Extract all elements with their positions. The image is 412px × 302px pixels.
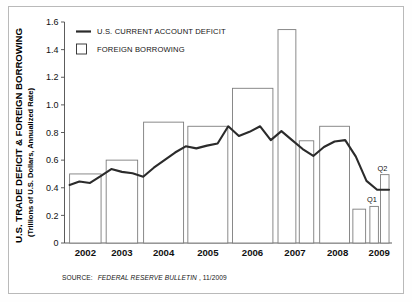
chart-canvas: U.S. TRADE DEFICIT & FOREIGN BORROWING (… [0, 0, 412, 302]
y-axis-title-sub: (Trillions of U.S. Dollars, Annualized R… [26, 87, 35, 237]
bar-2009-q1 [370, 206, 379, 243]
x-tick-label-2008: 2008 [327, 247, 349, 258]
source-note: SOURCE: FEDERAL RESERVE BULLETIN , 11/20… [62, 274, 227, 281]
bar-2007-h2 [299, 141, 313, 243]
y-axis-title: U.S. TRADE DEFICIT & FOREIGN BORROWING (… [13, 28, 35, 243]
y-tick-label: 0 [53, 238, 58, 248]
bar-2008 [320, 126, 350, 243]
source-prefix: SOURCE: [62, 274, 93, 281]
source-date: , 11/2009 [199, 274, 227, 281]
y-tick-label: 0.8 [46, 128, 59, 138]
annotation-q2: Q2 [378, 164, 388, 173]
x-tick-label-2003: 2003 [111, 247, 132, 258]
chart-legend: U.S. CURRENT ACCOUNT DEFICIT FOREIGN BOR… [76, 27, 226, 54]
legend-box-swatch-icon [77, 44, 87, 54]
y-axis-title-main: U.S. TRADE DEFICIT & FOREIGN BORROWING [13, 28, 24, 243]
y-axis-tick-labels: 00.20.40.60.81.01.21.41.6 [46, 17, 59, 248]
y-tick-label: 1.0 [46, 100, 59, 110]
x-tick-label-2002: 2002 [75, 247, 96, 258]
x-tick-label-2006: 2006 [242, 247, 263, 258]
foreign-borrowing-bars [70, 30, 389, 243]
x-tick-label-2009: 2009 [369, 247, 390, 258]
y-tick-label: 0.2 [46, 211, 59, 221]
bar-2009-q2 [381, 175, 390, 243]
y-tick-label: 1.2 [46, 72, 59, 82]
bar-2008-h2 [353, 209, 366, 243]
chart-figure: U.S. TRADE DEFICIT & FOREIGN BORROWING (… [0, 0, 412, 302]
legend-label-foreign-borrowing: FOREIGN BORROWING [97, 45, 185, 54]
y-tick-label: 0.4 [46, 183, 59, 193]
x-tick-label-2007: 2007 [284, 247, 305, 258]
bar-2004 [144, 122, 184, 243]
source-line: SOURCE: FEDERAL RESERVE BULLETIN , 11/20… [62, 274, 227, 281]
y-tick-label: 0.6 [46, 155, 59, 165]
bar-2006 [233, 88, 273, 243]
annotation-q1: Q1 [367, 195, 377, 204]
x-tick-label-2005: 2005 [197, 247, 219, 258]
legend-label-current-account-deficit: U.S. CURRENT ACCOUNT DEFICIT [97, 27, 226, 36]
bar-2005 [188, 126, 228, 243]
source-publication: FEDERAL RESERVE BULLETIN [98, 274, 197, 281]
y-tick-label: 1.6 [46, 17, 59, 27]
y-tick-label: 1.4 [46, 45, 59, 55]
x-tick-label-2004: 2004 [153, 247, 175, 258]
x-axis-tick-labels: 20022003200420052006200720082009 [75, 247, 390, 258]
